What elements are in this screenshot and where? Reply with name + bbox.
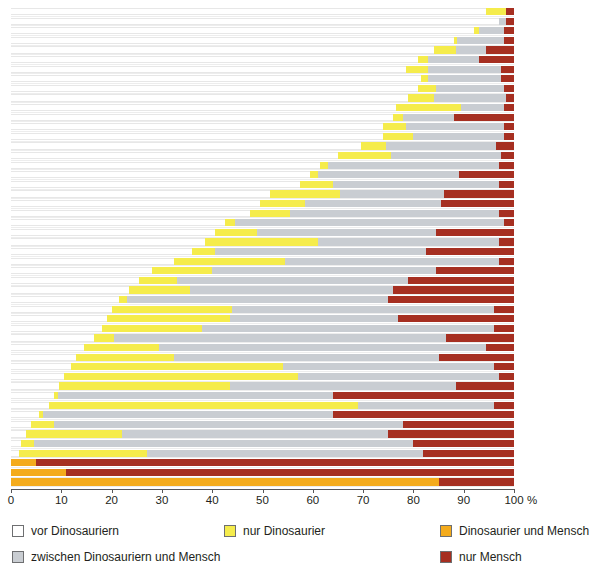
bar-segment-betw [290,210,499,217]
legend-swatch-icon-both [440,525,452,537]
bar-segment-dino [434,46,457,53]
table-row [11,200,514,207]
bar-segment-dino [19,450,147,457]
bar-segment-human [506,18,514,25]
legend-item-dino[interactable]: nur Dinosaurier [224,524,325,538]
bar-segment-pre [11,114,393,121]
bar-segment-dino [31,421,54,428]
bar-segment-human [494,325,514,332]
table-row [11,402,514,409]
table-row [11,363,514,370]
bar-segment-dino [21,440,34,447]
legend-row-1: vor Dinosauriernnur DinosaurierDinosauri… [12,524,544,550]
x-tick [212,489,213,493]
bar-segment-human [504,37,514,44]
bar-segment-dino [119,296,127,303]
bar-segment-human [499,162,514,169]
legend-item-betw[interactable]: zwischen Dinosauriern und Mensch [12,550,220,564]
bar-segment-pre [11,123,383,130]
table-row [11,75,514,82]
bar-segment-human [439,354,514,361]
bar-segment-pre [11,210,250,217]
bar-segment-human [454,114,514,121]
bar-segment-human [504,27,514,34]
table-row [11,411,514,418]
bar-segment-human [333,411,514,418]
table-row [11,85,514,92]
legend-item-pre[interactable]: vor Dinosauriern [12,524,119,538]
x-tick-label: 80 [407,494,420,506]
bar-segment-betw [403,114,453,121]
bar-segment-dino [396,104,461,111]
table-row [11,392,514,399]
bar-segment-betw [202,325,494,332]
table-row [11,440,514,447]
bar-segment-betw [456,46,486,53]
table-row [11,219,514,226]
bar-segment-pre [11,392,54,399]
bar-segment-pre [11,354,76,361]
bar-segment-pre [11,133,383,140]
legend-item-both[interactable]: Dinosaurier und Mensch [440,524,589,538]
legend-item-human[interactable]: nur Mensch [440,550,522,564]
bar-segment-pre [11,142,361,149]
table-row [11,114,514,121]
bar-segment-pre [11,334,94,341]
bar-segment-betw [428,75,501,82]
bar-segment-betw [428,66,501,73]
table-row [11,142,514,149]
table-row [11,152,514,159]
x-tick [464,489,465,493]
legend-label: zwischen Dinosauriern und Mensch [31,550,220,564]
bar-segment-pre [11,27,474,34]
bar-segment-betw [499,18,507,25]
x-tick [112,489,113,493]
bar-segment-human [486,344,514,351]
bar-segment-pre [11,258,174,265]
table-row [11,277,514,284]
legend-swatch-icon-dino [224,525,236,537]
bar-segment-pre [11,190,270,197]
bar-segment-human [403,421,514,428]
bar-segment-human [486,46,514,53]
bar-segment-human [423,450,514,457]
bar-segment-betw [43,411,333,418]
bar-segment-both [11,478,439,485]
bar-segment-human [494,306,514,313]
bar-segment-betw [436,85,504,92]
legend: vor Dinosauriernnur DinosaurierDinosauri… [12,524,544,576]
bar-segment-pre [11,75,421,82]
bar-segment-dino [406,66,429,73]
bar-segment-betw [434,94,507,101]
x-tick [263,489,264,493]
bar-segment-human [441,200,514,207]
legend-label: nur Mensch [459,550,522,564]
bar-segment-human [504,104,514,111]
bar-segment-dino [361,142,386,149]
bar-segment-betw [230,382,456,389]
bar-segment-pre [11,162,320,169]
bar-segment-pre [11,8,486,15]
bar-segment-betw [386,142,497,149]
table-row [11,46,514,53]
bar-segment-pre [11,200,260,207]
bar-segment-dino [102,325,203,332]
bar-segment-betw [333,181,499,188]
x-tick-label: 90 [457,494,470,506]
bar-segment-betw [305,200,441,207]
legend-swatch-icon-pre [12,525,24,537]
table-row [11,296,514,303]
legend-label: vor Dinosauriern [31,524,119,538]
table-row [11,430,514,437]
bar-segment-dino [300,181,333,188]
bar-segment-human [504,219,514,226]
bar-segment-human [459,171,514,178]
bar-segment-dino [225,219,235,226]
bar-segment-betw [230,315,399,322]
bar-segment-pre [11,46,434,53]
bar-segment-human [426,248,514,255]
bar-segment-betw [232,306,494,313]
x-tick-label: 60 [306,494,319,506]
bar-segment-pre [11,37,454,44]
